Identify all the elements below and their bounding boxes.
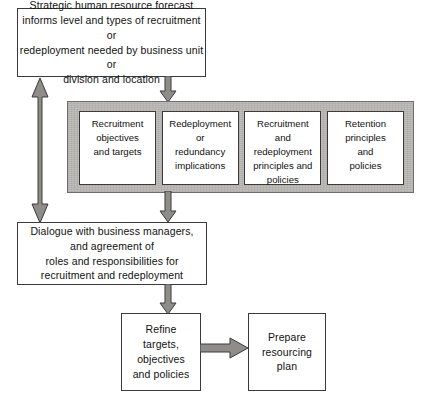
node-redeployment-redundancy-label: Redeployment or redundancy implications	[163, 117, 238, 173]
node-strategic-forecast-label: Strategic human resource forecast inform…	[18, 0, 205, 87]
arrow-dialogue-to-refine-icon	[159, 284, 177, 315]
node-prepare-resourcing-plan: Prepare resourcing plan	[248, 313, 326, 391]
node-retention-principles-label: Retention principles and policies	[328, 117, 403, 173]
node-dialogue-with-managers-label: Dialogue with business managers, and agr…	[18, 224, 206, 284]
node-recruitment-objectives-label: Recruitment objectives and targets	[80, 117, 155, 159]
arrow-policy-band-to-dialogue-icon	[159, 191, 177, 223]
node-refine-targets: Refine targets, objectives and policies	[121, 313, 201, 391]
policy-band-container: Recruitment objectives and targets Redep…	[67, 101, 414, 193]
node-redeployment-redundancy: Redeployment or redundancy implications	[162, 111, 239, 185]
policy-band-box-row: Recruitment objectives and targets Redep…	[79, 111, 404, 185]
node-recruitment-redeployment-principles-label: Recruitment and redeployment principles …	[245, 117, 320, 187]
node-refine-targets-label: Refine targets, objectives and policies	[122, 322, 200, 382]
node-recruitment-redeployment-principles: Recruitment and redeployment principles …	[244, 111, 321, 185]
node-dialogue-with-managers: Dialogue with business managers, and agr…	[17, 222, 207, 285]
node-recruitment-objectives: Recruitment objectives and targets	[79, 111, 156, 185]
node-prepare-resourcing-plan-label: Prepare resourcing plan	[249, 330, 325, 375]
node-strategic-forecast: Strategic human resource forecast inform…	[17, 8, 206, 77]
arrow-refine-to-prepare-icon	[200, 337, 249, 359]
diagram-canvas: Strategic human resource forecast inform…	[0, 0, 425, 406]
arrow-forecast-dialogue-feedback-icon	[31, 77, 50, 224]
node-retention-principles: Retention principles and policies	[327, 111, 404, 185]
